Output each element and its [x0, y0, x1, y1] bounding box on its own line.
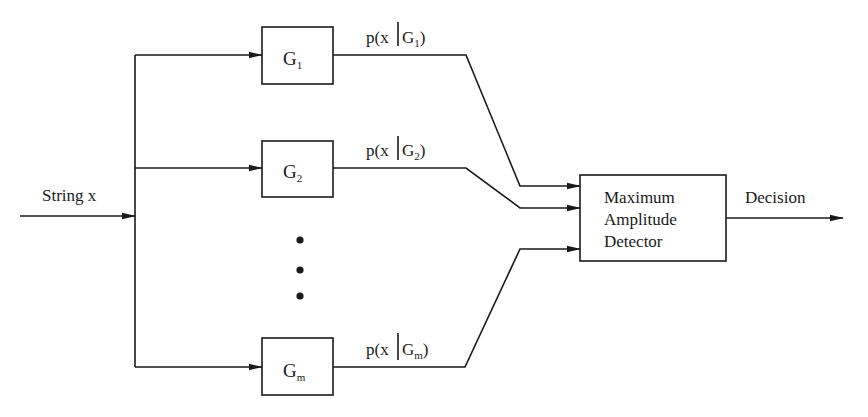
classifier-box-gm	[262, 338, 333, 395]
likelihood-label-g1: p(xG1)	[366, 28, 425, 49]
ellipsis-dots	[296, 236, 303, 299]
classifier-label-g1: G1	[283, 48, 302, 71]
input-label: String x	[42, 186, 97, 205]
output-path-g2	[333, 168, 580, 208]
classifier-box-g2	[262, 141, 333, 197]
likelihood-label-g2: p(xG2)	[366, 141, 425, 162]
decision-label: Decision	[745, 188, 806, 207]
detector-label: Maximum Amplitude Detector	[604, 188, 681, 251]
classifier-label-gm: Gm	[283, 360, 306, 383]
output-path-g1	[333, 55, 580, 186]
classifier-label-g2: G2	[283, 161, 302, 184]
block-diagram: String x G1 G2 Gm p(xG1) p(xG2) p(xGm) M…	[0, 0, 868, 417]
classifier-box-g1	[262, 27, 333, 84]
